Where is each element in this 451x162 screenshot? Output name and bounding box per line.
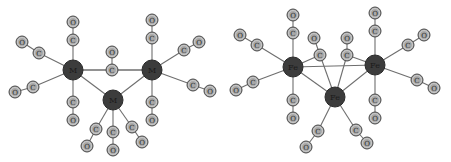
oxygen-atom: O bbox=[234, 29, 246, 41]
oxygen-atom-label: O bbox=[344, 35, 350, 43]
oxygen-atom-label: O bbox=[139, 139, 145, 147]
oxygen-atom: O bbox=[204, 85, 216, 97]
oxygen-atom-label: O bbox=[372, 10, 378, 18]
carbon-atom: C bbox=[287, 94, 299, 106]
metal-label: M bbox=[69, 66, 77, 75]
carbon-atom: C bbox=[312, 125, 324, 137]
carbon-atom-label: C bbox=[129, 124, 134, 132]
oxygen-atom-label: O bbox=[372, 115, 378, 123]
carbon-atom: C bbox=[27, 81, 39, 93]
metal-atom-Fe1: Fe bbox=[283, 57, 303, 77]
carbon-atom: C bbox=[90, 123, 102, 135]
carbon-atom: C bbox=[341, 49, 353, 61]
carbon-atom-label: C bbox=[109, 67, 114, 75]
oxygen-atom-label: O bbox=[421, 32, 427, 40]
oxygen-atom-label: O bbox=[84, 143, 90, 151]
carbon-atom: C bbox=[411, 74, 423, 86]
oxygen-atom: O bbox=[300, 141, 312, 153]
carbon-atom: C bbox=[187, 79, 199, 91]
carbon-atom: C bbox=[350, 124, 362, 136]
bonds bbox=[236, 13, 434, 147]
carbon-atom-label: C bbox=[149, 99, 154, 107]
oxygen-atom-label: O bbox=[19, 39, 25, 47]
carbon-atom: C bbox=[33, 47, 45, 59]
carbon-atom-label: C bbox=[250, 79, 255, 87]
carbon-atom: C bbox=[287, 27, 299, 39]
oxygen-atom: O bbox=[308, 32, 320, 44]
atoms: COCOCOCOCOCOCOCOCOCOCOCOMMM bbox=[9, 14, 216, 156]
carbon-atom: C bbox=[369, 94, 381, 106]
carbon-atom: C bbox=[247, 76, 259, 88]
oxygen-atom-label: O bbox=[70, 117, 76, 125]
oxygen-atom-label: O bbox=[233, 87, 239, 95]
carbon-atom-label: C bbox=[70, 37, 75, 45]
oxygen-atom-label: O bbox=[290, 12, 296, 20]
oxygen-atom-label: O bbox=[290, 115, 296, 123]
metal-atom-M2: M bbox=[142, 60, 162, 80]
carbon-atom: C bbox=[402, 39, 414, 51]
carbon-atom: C bbox=[107, 126, 119, 138]
oxygen-atom-label: O bbox=[311, 35, 317, 43]
carbon-atom-label: C bbox=[254, 42, 259, 50]
molecule-canvas: COCOCOCOCOCOCOCOCOCOCOCOMMMCOCOCOCOCOCOC… bbox=[0, 0, 451, 162]
oxygen-atom: O bbox=[428, 82, 440, 94]
oxygen-atom-label: O bbox=[431, 85, 437, 93]
carbon-atom-label: C bbox=[315, 128, 320, 136]
metal-metal-bond-Fe1-Fe2 bbox=[293, 65, 375, 67]
metal-atom-M1: M bbox=[63, 60, 83, 80]
oxygen-atom: O bbox=[361, 137, 373, 149]
carbon-atom-label: C bbox=[317, 52, 322, 60]
oxygen-atom: O bbox=[369, 7, 381, 19]
oxygen-atom: O bbox=[67, 114, 79, 126]
carbon-atom: C bbox=[67, 96, 79, 108]
oxygen-atom-label: O bbox=[303, 144, 309, 152]
carbon-atom: C bbox=[314, 49, 326, 61]
carbon-atom-label: C bbox=[290, 97, 295, 105]
metal-atom-M3: M bbox=[103, 90, 123, 110]
molecule-fe3-co12: COCOCOCOCOCOCOCOCOCOCOCOFeFeFe bbox=[230, 7, 440, 153]
metal-label: M bbox=[109, 96, 117, 105]
molecule-m3-co12-generic: COCOCOCOCOCOCOCOCOCOCOCOMMM bbox=[9, 14, 216, 156]
carbon-atom-label: C bbox=[149, 35, 154, 43]
carbon-atom-label: C bbox=[30, 84, 35, 92]
oxygen-atom-label: O bbox=[237, 32, 243, 40]
oxygen-atom-label: O bbox=[364, 140, 370, 148]
atoms: COCOCOCOCOCOCOCOCOCOCOCOFeFeFe bbox=[230, 7, 440, 153]
carbon-atom-label: C bbox=[36, 50, 41, 58]
carbon-atom: C bbox=[146, 96, 158, 108]
carbon-atom: C bbox=[67, 34, 79, 46]
oxygen-atom: O bbox=[146, 14, 158, 26]
oxygen-atom-label: O bbox=[149, 17, 155, 25]
oxygen-atom: O bbox=[9, 86, 21, 98]
oxygen-atom: O bbox=[16, 36, 28, 48]
carbon-atom: C bbox=[126, 121, 138, 133]
carbon-atom-label: C bbox=[344, 52, 349, 60]
carbon-atom-label: C bbox=[190, 82, 195, 90]
oxygen-atom: O bbox=[230, 84, 242, 96]
metal-label: Fe bbox=[370, 61, 380, 70]
oxygen-atom: O bbox=[136, 136, 148, 148]
carbon-atom-label: C bbox=[353, 127, 358, 135]
carbon-atom-label: C bbox=[290, 30, 295, 38]
oxygen-atom: O bbox=[341, 32, 353, 44]
oxygen-atom: O bbox=[193, 36, 205, 48]
carbon-atom-label: C bbox=[414, 77, 419, 85]
oxygen-atom-label: O bbox=[70, 19, 76, 27]
oxygen-atom: O bbox=[107, 144, 119, 156]
carbon-atom: C bbox=[106, 64, 118, 76]
oxygen-atom-label: O bbox=[196, 39, 202, 47]
oxygen-atom: O bbox=[369, 112, 381, 124]
oxygen-atom-label: O bbox=[207, 88, 213, 96]
oxygen-atom-label: O bbox=[109, 49, 115, 57]
oxygen-atom: O bbox=[106, 46, 118, 58]
oxygen-atom: O bbox=[67, 16, 79, 28]
oxygen-atom: O bbox=[287, 112, 299, 124]
oxygen-atom: O bbox=[146, 114, 158, 126]
carbon-atom: C bbox=[369, 25, 381, 37]
carbon-atom-label: C bbox=[110, 129, 115, 137]
carbon-atom: C bbox=[251, 39, 263, 51]
metal-atom-Fe2: Fe bbox=[365, 55, 385, 75]
carbon-atom-label: C bbox=[405, 42, 410, 50]
carbon-atom-label: C bbox=[372, 97, 377, 105]
oxygen-atom-label: O bbox=[110, 147, 116, 155]
